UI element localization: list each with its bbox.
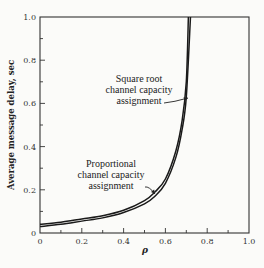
annotation-line: Proportional: [86, 158, 136, 169]
annotation-line: channel capacity: [78, 169, 145, 180]
x-tick-label: 0.6: [159, 237, 172, 246]
annotation-line: channel capacity: [106, 84, 173, 95]
x-tick-label: 0: [37, 237, 42, 246]
annotation-line: assignment: [89, 180, 134, 191]
x-tick-label: 0.4: [117, 237, 130, 246]
proportional-annotation: Proportionalchannel capacityassignment: [78, 158, 145, 191]
delay-vs-utilization-chart: 00.20.40.60.81.000.20.40.60.81.0 Square …: [0, 0, 264, 268]
annotation-line: assignment: [117, 95, 162, 106]
square-root-curve: [40, 17, 190, 227]
y-tick-label: 0.8: [23, 56, 36, 65]
y-tick-label: 0.2: [23, 186, 36, 195]
x-axis-title: ρ: [141, 245, 149, 255]
proportional-curve: [40, 17, 188, 224]
x-tick-label: 0.2: [75, 237, 88, 246]
x-tick-label: 1.0: [243, 237, 256, 246]
x-tick-label: 0.8: [201, 237, 214, 246]
y-tick-label: 0: [31, 229, 36, 238]
y-axis-title: Average message delay, sec: [6, 60, 17, 191]
square-root-annotation: Square rootchannel capacityassignment: [106, 73, 173, 106]
y-tick-label: 0.4: [23, 143, 36, 152]
annotation-line: Square root: [116, 73, 163, 84]
axis-ticks: 00.20.40.60.81.000.20.40.60.81.0: [23, 13, 255, 246]
curves: [40, 17, 190, 227]
y-tick-label: 1.0: [23, 13, 36, 22]
y-tick-label: 0.6: [23, 99, 36, 108]
annotations: Square rootchannel capacityassignmentPro…: [78, 73, 188, 194]
